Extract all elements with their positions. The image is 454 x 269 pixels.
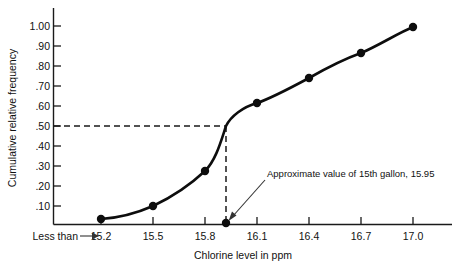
y-tick-label: .60 [35,100,50,112]
x-tick-label: 15.5 [143,230,164,242]
x-tick-label: 15.8 [195,230,216,242]
x-tick-label: 16.7 [351,230,372,242]
x-axis-ticks [101,217,413,225]
y-tick-label: .90 [35,40,50,52]
less-than-label: Less than [32,230,78,242]
y-tick-label: .70 [35,80,50,92]
x-tick-label: 16.1 [247,230,268,242]
data-point [201,167,209,175]
data-point-markers [97,23,417,227]
y-tick-label: .50 [35,120,50,132]
data-point [253,99,261,107]
y-tick-label: 1.00 [30,20,51,32]
plot-area: 1.00 .90 .80 .70 .60 .50 .40 .30 .20 .10… [0,0,454,269]
callout-leader-line [233,180,265,216]
cumulative-frequency-chart: 1.00 .90 .80 .70 .60 .50 .40 .30 .20 .10… [0,0,454,269]
x-tick-label: 16.4 [299,230,320,242]
data-point [305,74,313,82]
x-axis-title: Chlorine level in ppm [194,249,292,261]
x-tick-label: 17.0 [403,230,424,242]
cumulative-frequency-curve [101,27,413,219]
y-tick-label: .10 [35,200,50,212]
y-axis-title: Cumulative relative frequency [6,48,18,187]
y-tick-label: .20 [35,180,50,192]
data-point [357,49,365,57]
y-tick-label: .40 [35,140,50,152]
median-callout-text: Approximate value of 15th gallon, 15.95 [267,168,434,179]
data-point [97,215,105,223]
data-point [149,202,157,210]
y-tick-label: .30 [35,160,50,172]
y-axis-ticks [54,26,62,206]
y-tick-label: .80 [35,60,50,72]
data-point [409,23,417,31]
